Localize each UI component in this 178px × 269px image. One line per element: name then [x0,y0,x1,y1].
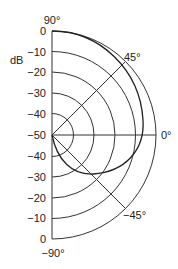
tick-lower-30: −30 [27,171,46,183]
tick-upper-40: −40 [27,108,46,120]
angle-label-0: 0° [161,129,172,141]
tick-upper-0: 0 [40,25,46,37]
tick-center-50: −50 [27,129,46,141]
tick-lower-0: 0 [40,233,46,245]
tick-upper-30: −30 [27,87,46,99]
radial-axis-label: dB [10,54,23,66]
angle-label-45: 45° [124,51,141,63]
tick-upper-10: −10 [27,46,46,58]
tick-lower-10: −10 [27,212,46,224]
angle-label-90: 90° [44,14,61,26]
tick-lower-40: −40 [27,150,46,162]
polar-chart: 90° 45° 0° −45° −90° dB 0 −10 −20 −30 −4… [0,0,178,269]
tick-lower-20: −20 [27,192,46,204]
tick-upper-20: −20 [27,66,46,78]
angle-label-minus45: −45° [123,209,146,221]
angle-label-minus90: −90° [41,247,64,259]
